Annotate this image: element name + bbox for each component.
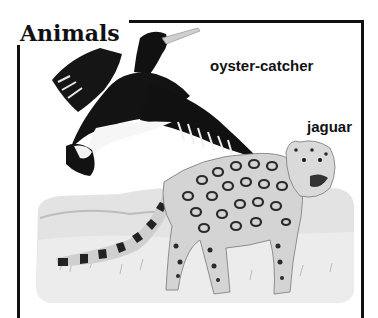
- label-oyster-catcher: oyster-catcher: [210, 57, 313, 74]
- oyster-catcher-bird-icon: [52, 28, 258, 176]
- label-jaguar: jaguar: [307, 118, 352, 135]
- animals-illustration: [0, 0, 378, 318]
